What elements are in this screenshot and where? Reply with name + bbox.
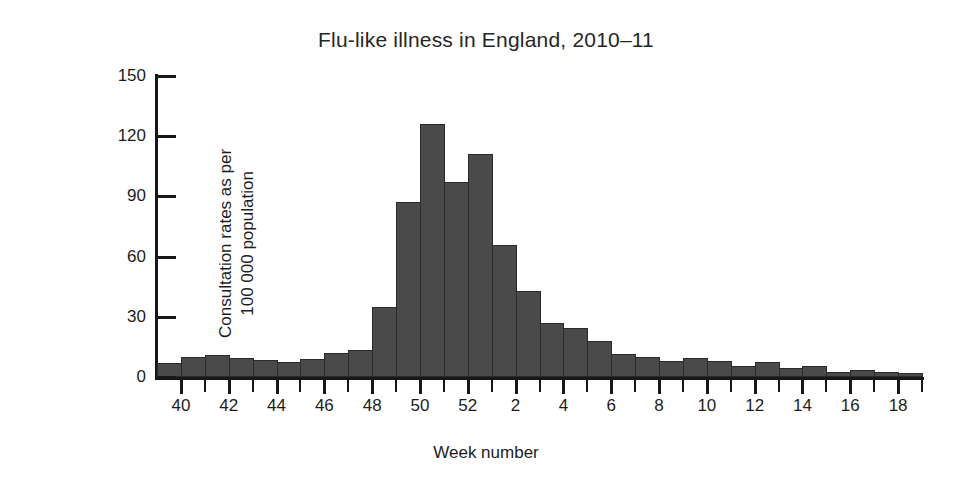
bar [516, 291, 541, 377]
bar [563, 328, 588, 377]
bar [587, 341, 612, 377]
bar [874, 372, 899, 377]
bar [802, 366, 827, 377]
x-axis-tick-label: 18 [878, 396, 918, 416]
bar [898, 373, 923, 377]
bar [324, 353, 349, 377]
x-axis-tick [252, 380, 254, 392]
bar [635, 357, 660, 377]
bar [779, 368, 804, 377]
bar [277, 362, 302, 377]
y-axis-tick [157, 316, 176, 319]
x-axis-tick [849, 380, 852, 394]
y-axis-tick [157, 75, 176, 78]
x-axis-tick [658, 380, 661, 394]
x-axis-tick [586, 380, 588, 392]
x-axis-tick [610, 380, 613, 394]
bar-series [157, 76, 922, 377]
x-axis-tick-label: 4 [543, 396, 583, 416]
y-axis-tick-label: 90 [100, 187, 146, 204]
bar [540, 323, 565, 377]
bar [492, 245, 517, 377]
x-axis-tick [634, 380, 636, 392]
x-axis-tick [491, 380, 493, 392]
bar [707, 361, 732, 377]
x-axis-tick [682, 380, 684, 392]
bar [611, 354, 636, 377]
bar [683, 358, 708, 377]
x-axis-tick-label: 14 [782, 396, 822, 416]
x-axis-tick [467, 380, 470, 394]
bar [659, 361, 684, 377]
chart-title: Flu-like illness in England, 2010–11 [0, 28, 972, 52]
x-axis-tick-label: 48 [352, 396, 392, 416]
x-axis-tick-label: 44 [257, 396, 297, 416]
x-axis-tick [873, 380, 875, 392]
bar [826, 372, 851, 377]
bar [372, 307, 397, 377]
y-axis-tick [157, 135, 176, 138]
x-axis-tick [395, 380, 397, 392]
bar [396, 202, 421, 377]
x-axis-tick [419, 380, 422, 394]
x-axis-tick [921, 380, 923, 392]
x-axis-tick [778, 380, 780, 392]
x-axis-tick [730, 380, 732, 392]
x-axis-tick [443, 380, 445, 392]
y-axis-tick [157, 195, 176, 198]
x-axis-tick-label: 40 [161, 396, 201, 416]
bar [731, 366, 756, 377]
x-axis-tick-label: 46 [304, 396, 344, 416]
y-axis-tick-label: 120 [100, 127, 146, 144]
x-axis-tick [539, 380, 541, 392]
x-axis-tick [371, 380, 374, 394]
x-axis-tick [706, 380, 709, 394]
x-axis-tick-label: 52 [448, 396, 488, 416]
y-axis-title-line1: Consultation rates as per [216, 149, 235, 338]
x-axis-tick [323, 380, 326, 394]
x-axis-tick-label: 42 [209, 396, 249, 416]
x-axis-tick [276, 380, 279, 394]
x-axis-tick-label: 16 [830, 396, 870, 416]
bar [420, 124, 445, 377]
x-axis-tick [515, 380, 518, 394]
x-axis-tick-label: 50 [400, 396, 440, 416]
x-axis-tick-label: 8 [639, 396, 679, 416]
bar [444, 182, 469, 377]
y-axis-tick [157, 376, 176, 379]
x-axis-tick [754, 380, 757, 394]
bar [157, 363, 182, 377]
x-axis-tick [204, 380, 206, 392]
x-axis-tick-label: 10 [687, 396, 727, 416]
x-axis-title: Week number [0, 443, 972, 463]
bar [181, 357, 206, 377]
y-axis-tick-label: 150 [100, 67, 146, 84]
y-axis-tick-label: 30 [100, 308, 146, 325]
x-axis-tick-label: 6 [591, 396, 631, 416]
x-axis-tick [825, 380, 827, 392]
x-axis-tick [299, 380, 301, 392]
y-axis-title-line2: 100 000 population [238, 171, 257, 316]
x-axis-tick [801, 380, 804, 394]
x-axis-tick [897, 380, 900, 394]
x-axis-tick [347, 380, 349, 392]
x-axis-tick [180, 380, 183, 394]
x-axis-tick [228, 380, 231, 394]
bar [850, 370, 875, 377]
bar [300, 359, 325, 377]
y-axis-tick-label: 0 [100, 368, 146, 385]
chart-figure: Flu-like illness in England, 2010–11 Con… [0, 0, 972, 496]
bar [348, 350, 373, 377]
x-axis-tick [562, 380, 565, 394]
x-axis-tick-label: 2 [496, 396, 536, 416]
bar [468, 154, 493, 377]
y-axis-title: Consultation rates as per 100 000 popula… [215, 78, 260, 408]
plot-area: Consultation rates as per 100 000 popula… [157, 76, 922, 377]
x-axis-tick-label: 12 [735, 396, 775, 416]
bar [755, 362, 780, 377]
y-axis-tick [157, 256, 176, 259]
y-axis-tick-label: 60 [100, 248, 146, 265]
